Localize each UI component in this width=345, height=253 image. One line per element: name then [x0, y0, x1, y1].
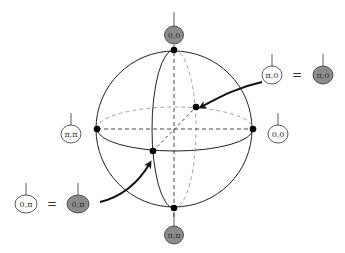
node-top-label: 0,0 [168, 31, 181, 40]
equals-sign-back: = [292, 68, 302, 82]
node-bottom: π,π [165, 212, 184, 244]
west-point [94, 126, 101, 133]
node-right: 0,0 [268, 113, 288, 143]
equator-back [97, 107, 253, 129]
back-point [193, 104, 200, 111]
node-top: 0,0 [165, 12, 184, 44]
node-left-label: π,π [64, 130, 77, 139]
node-bottom-label: π,π [167, 231, 180, 240]
node-back-open-label: π,0 [266, 71, 279, 80]
node-right-label: 0,0 [272, 130, 285, 139]
equator-front [97, 129, 253, 151]
front-equivalence: 0,π = 0,π [15, 183, 89, 213]
back-equivalence: π,0 = π,0 [262, 54, 333, 84]
front-point [150, 148, 157, 155]
node-left: π,π [61, 113, 81, 143]
node-front-open-label: 0,π [20, 200, 33, 209]
node-back-filled-label: π,0 [317, 71, 330, 80]
east-point [250, 126, 257, 133]
equals-sign-front: = [47, 197, 57, 211]
arrow-to-back-point [201, 82, 262, 107]
north-pole-point [171, 47, 178, 54]
south-pole-point [171, 205, 178, 212]
bloch-sphere-diagram: 0,0 π,π π,π 0,0 π,0 = π,0 0,π = 0,π [0, 0, 345, 253]
node-front-filled-label: 0,π [72, 200, 85, 209]
